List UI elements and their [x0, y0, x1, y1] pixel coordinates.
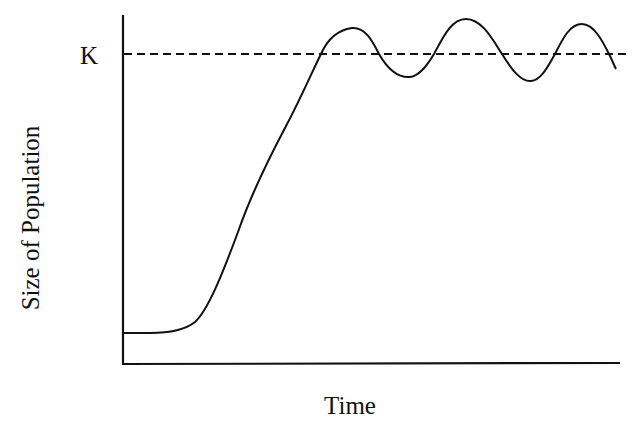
- population-curve: [124, 19, 616, 333]
- k-label: K: [80, 42, 98, 69]
- x-axis-label: Time: [324, 392, 376, 419]
- population-growth-chart: K Time Size of Population: [0, 0, 633, 429]
- x-axis: [122, 363, 620, 364]
- y-axis-label: Size of Population: [17, 125, 44, 310]
